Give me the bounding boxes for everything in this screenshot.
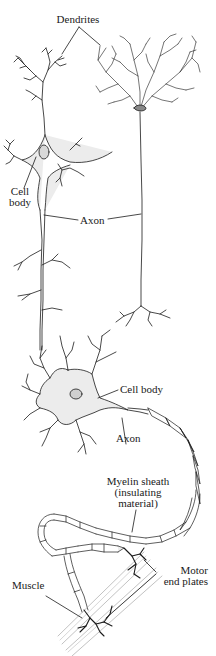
neuron-diagram <box>0 0 216 656</box>
axon-label-bottom: Axon <box>116 433 140 444</box>
cell-body-label-line2: body <box>6 197 34 208</box>
myelin-sheath-label-line3: material) <box>100 498 176 509</box>
motor-end-plates-label-line2: end plates <box>150 576 208 587</box>
dendrites-leader-lines <box>62 27 100 54</box>
dendrites-label: Dendrites <box>52 14 104 25</box>
axon-leader-left <box>44 215 78 220</box>
muscle-label: Muscle <box>12 580 44 591</box>
cell-body-label-bottom: Cell body <box>120 384 163 395</box>
axon-label-top: Axon <box>80 215 104 226</box>
purkinje-neuron <box>96 34 200 326</box>
axon-leader-right <box>108 214 141 219</box>
